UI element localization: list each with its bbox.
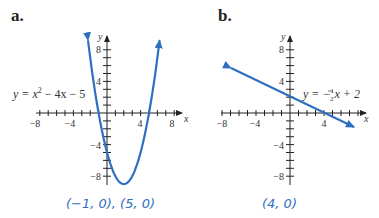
- graph-a-ytick-label: −4: [90, 140, 101, 151]
- eq-b-den: 2: [330, 95, 334, 103]
- graph-a-x-axis-label: x: [183, 113, 189, 124]
- graph-a-ytick-label: 8: [96, 44, 101, 55]
- graph-a-y-axis-label: y: [97, 31, 103, 42]
- eq-a-lhs: y = x: [12, 87, 38, 101]
- graphs-canvas: −8 −4 4 8 x 8 4 −4 −8 y y = x2 − 4x − 5 …: [0, 0, 379, 218]
- graph-a-answer: (−1, 0), (5, 0): [66, 196, 155, 211]
- graph-b-equation: y = −12x + 2: [302, 87, 360, 103]
- graph-a-ytick-label: 4: [96, 76, 101, 87]
- graph-a-equation: y = x2 − 4x − 5: [12, 86, 85, 101]
- graph-b-ytick-label: −4: [273, 140, 284, 151]
- graph-b-ytick-label: −8: [273, 171, 284, 182]
- graph-a: −8 −4 4 8 x 8 4 −4 −8 y y = x2 − 4x − 5: [12, 31, 189, 185]
- graph-b-ytick-label: 4: [279, 76, 284, 87]
- graph-b-xtick-label: 4: [322, 118, 327, 129]
- graph-b: −8 −4 4 x 8 4 −4 −8 y y = −12x + 2: [217, 31, 369, 185]
- graph-a-xtick-label: −4: [65, 118, 76, 129]
- graph-a-ytick-label: −8: [90, 171, 101, 182]
- graph-b-xtick-label: −4: [250, 118, 261, 129]
- graph-b-y-axis: [286, 36, 294, 185]
- graph-b-y-axis-label: y: [280, 31, 286, 42]
- eq-a-rhs: − 4x − 5: [42, 87, 86, 101]
- graph-b-x-axis: [221, 110, 366, 116]
- graph-b-xtick-label: −8: [217, 118, 228, 129]
- graph-b-answer: (4, 0): [262, 196, 297, 211]
- eq-b-rhs: x + 2: [334, 87, 360, 101]
- eq-b-lhs: y = −: [302, 87, 331, 101]
- graph-a-x-axis: [36, 110, 182, 116]
- graph-a-xtick-label: 8: [170, 118, 175, 129]
- graph-b-x-axis-label: x: [363, 113, 369, 124]
- graph-a-xtick-label: 4: [138, 118, 143, 129]
- graph-b-ytick-label: 8: [279, 44, 284, 55]
- graph-a-xtick-label: −8: [30, 118, 41, 129]
